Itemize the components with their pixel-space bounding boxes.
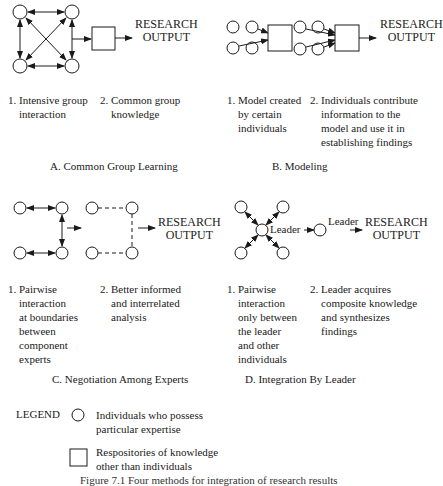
legend-square-icon (70, 449, 87, 466)
legend-circle-text: Individuals who possess particular exper… (96, 408, 203, 436)
panel-a-caption: A. Common Group Learning (50, 160, 178, 172)
panel-b-diagram (227, 21, 376, 55)
panel-b-caption: B. Modeling (272, 160, 328, 172)
panel-b-step-2: 2. Individuals contributeinformation to … (310, 93, 418, 149)
panel-a-diagram (13, 5, 132, 73)
panel-c-step-1: 1. Pairwiseinteractionat boundariesbetwe… (8, 282, 78, 366)
panel-d-caption: D. Integration By Leader (245, 373, 356, 385)
panel-a-output: RESEARCH OUTPUT (135, 18, 198, 44)
panel-d-output: RESEARCH OUTPUT (365, 216, 428, 242)
panel-d-step-1: 1. Pairwiseinteractiononly betweenthe le… (227, 282, 297, 366)
panel-a-step-1: 1. Intensive groupinteraction (8, 93, 88, 121)
panel-c-diagram (14, 202, 155, 259)
panel-b-step-1: 1. Model createdby certainindividuals (227, 93, 301, 135)
legend-square-text: Respositories of knowledge other than in… (96, 445, 218, 473)
figure-caption: Figure 7.1 Four methods for integration … (80, 474, 338, 486)
panel-b-output: RESEARCH OUTPUT (380, 18, 443, 44)
panel-c-output: RESEARCH OUTPUT (158, 216, 221, 242)
leader-label-2: Leader (328, 215, 359, 227)
panel-d-step-2: 2. Leader acquirescomposite knowledgeand… (310, 282, 417, 338)
leader-label-1: Leader (270, 223, 301, 235)
legend-title: LEGEND (16, 408, 60, 420)
legend-circle-icon (72, 409, 84, 421)
panel-c-step-2: 2. Better informedand interrelatedanalys… (100, 282, 181, 324)
panel-a-step-2: 2. Common groupknowledge (100, 93, 180, 121)
panel-c-caption: C. Negotiation Among Experts (52, 373, 188, 385)
